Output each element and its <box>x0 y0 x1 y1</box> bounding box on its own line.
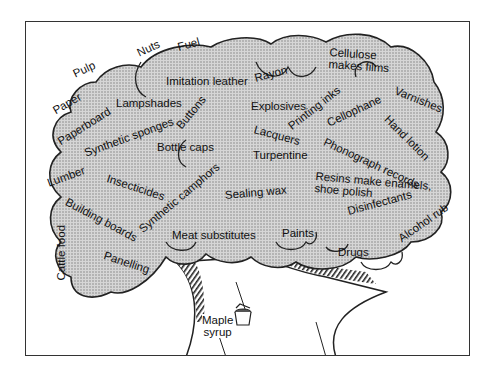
label-explosives: Explosives <box>251 101 306 113</box>
label-drugs: Drugs <box>338 247 369 259</box>
label-bottle-caps: Bottle caps <box>157 142 214 154</box>
label-cattle-food: Cattle food <box>56 225 68 281</box>
label-imitation-leather: Imitation leather <box>166 76 248 88</box>
sap-bucket-icon <box>232 302 254 328</box>
label-cellulose-makes-films: Cellulose makes films <box>328 46 390 74</box>
illustration-frame: Pulp Nuts Fuel Imitation leather Rayon C… <box>25 21 470 356</box>
label-maple-syrup: Maple syrup <box>202 314 233 338</box>
label-paints: Paints <box>282 228 314 240</box>
trunk <box>176 254 386 356</box>
label-meat-substitutes: Meat substitutes <box>172 230 256 242</box>
label-lampshades: Lampshades <box>116 98 182 110</box>
label-turpentine: Turpentine <box>253 150 308 162</box>
